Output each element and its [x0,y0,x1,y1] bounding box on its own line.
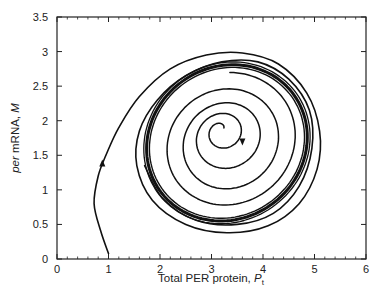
inner-trajectory [167,73,295,206]
y-tick-label: 1.5 [33,149,48,161]
y-tick-label: 3 [42,46,48,58]
phase-plane-chart: 012345600.511.522.533.5 Total PER protei… [0,0,383,302]
x-axis-title: Total PER protein, Pt [158,272,265,287]
x-tick-label: 0 [54,263,60,275]
tick-labels: 012345600.511.522.533.5 [33,11,369,275]
arrow-down-icon [239,138,245,145]
x-tick-label: 5 [311,263,317,275]
direction-arrows [99,138,245,166]
y-tick-label: 3.5 [33,11,48,23]
y-tick-label: 0.5 [33,218,48,230]
y-axis-title: per mRNA, M [9,103,21,174]
y-tick-label: 1 [42,184,48,196]
x-tick-label: 1 [105,263,111,275]
trajectories [94,52,320,253]
y-tick-label: 2 [42,115,48,127]
y-tick-label: 2.5 [33,80,48,92]
y-tick-label: 0 [42,253,48,265]
x-tick-label: 6 [363,263,369,275]
